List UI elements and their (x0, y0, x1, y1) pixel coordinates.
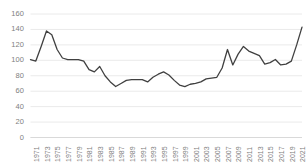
x-axis-tick-label: 1975 (54, 146, 61, 162)
x-axis-tick-label: 1977 (65, 146, 72, 162)
x-axis-tick-label: 1979 (76, 146, 83, 162)
x-axis-tick-label: 2007 (225, 146, 232, 162)
x-axis-tick-label: 2015 (267, 146, 274, 162)
x-axis-tick-label: 2001 (193, 146, 200, 162)
x-axis-tick-label: 2005 (214, 146, 221, 162)
data-series-line (31, 27, 303, 86)
y-axis-tick-label: 100 (2, 56, 24, 64)
x-axis-tick-label: 1987 (118, 146, 125, 162)
gridlines-group (31, 14, 303, 138)
y-axis-tick-label: 60 (2, 87, 24, 95)
x-axis-tick-label: 2021 (299, 146, 306, 162)
line-chart: 020406080100120140160 197119731975197719… (0, 0, 307, 166)
x-axis-tick-label: 1983 (97, 146, 104, 162)
y-axis-tick-label: 0 (2, 134, 24, 142)
x-axis-tick-label: 2003 (203, 146, 210, 162)
x-axis-tick-label: 2017 (278, 146, 285, 162)
chart-svg (0, 0, 307, 166)
x-axis-tick-label: 2019 (289, 146, 296, 162)
x-axis-tick-label: 1993 (150, 146, 157, 162)
x-axis-tick-label: 1985 (108, 146, 115, 162)
x-axis-tick-label: 2013 (257, 146, 264, 162)
x-axis-tick-label: 1973 (44, 146, 51, 162)
x-axis-tick-label: 1991 (140, 146, 147, 162)
x-axis-tick-label: 1997 (172, 146, 179, 162)
y-axis-tick-label: 120 (2, 41, 24, 49)
x-axis-tick-label: 1971 (33, 146, 40, 162)
y-axis-tick-label: 80 (2, 72, 24, 80)
y-axis-tick-label: 40 (2, 103, 24, 111)
y-axis-tick-label: 160 (2, 10, 24, 18)
x-axis-tick-label: 1981 (86, 146, 93, 162)
x-axis-tick-label: 1995 (161, 146, 168, 162)
y-axis-tick-label: 20 (2, 118, 24, 126)
x-axis-tick-label: 1989 (129, 146, 136, 162)
chart-canvas (0, 0, 307, 166)
x-axis-tick-label: 2009 (235, 146, 242, 162)
x-axis-tick-label: 2011 (246, 146, 253, 161)
x-axis-tick-label: 1999 (182, 146, 189, 162)
y-axis-tick-label: 140 (2, 25, 24, 33)
